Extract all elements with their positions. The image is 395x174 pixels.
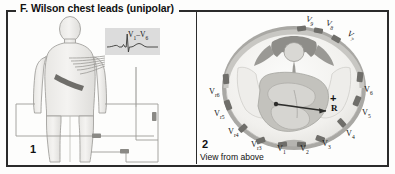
limb-electrode-markers <box>92 112 157 154</box>
lead-label-vr3: Vr3 <box>251 140 262 149</box>
lead-label-vr4: Vr4 <box>228 127 239 136</box>
figure-head <box>60 17 81 42</box>
section-letter: F. <box>20 2 28 14</box>
lead-label-v4: V4 <box>346 129 355 138</box>
figure-page: F.Wilson chest leads (unipolar) <box>0 0 395 174</box>
figure-leg-right <box>79 116 94 162</box>
ecg-lead-range-label: V1–V6 <box>128 30 148 41</box>
figure-torso <box>45 43 95 116</box>
figure-leg-left <box>47 116 62 162</box>
lead-label-v3: V3 <box>322 139 331 148</box>
lead-label-v1: V1 <box>277 144 286 153</box>
lead-label-vr5: Vr5 <box>214 109 225 118</box>
electrode-tab-vr6 <box>223 74 230 84</box>
panel-2-caption: View from above <box>200 152 264 162</box>
figure-title: F.Wilson chest leads (unipolar) <box>16 2 179 14</box>
panel-1-number: 1 <box>30 143 36 155</box>
right-side-marker: R <box>331 104 338 113</box>
lead-label-v6: V6 <box>364 85 373 94</box>
lead-label-v5: V5 <box>362 108 371 117</box>
panel-divider <box>196 12 197 164</box>
panel-1-body-illustration <box>8 12 196 164</box>
panel-2-number: 2 <box>202 138 208 150</box>
spinal-canal <box>284 43 304 62</box>
frame-bottom-rule <box>6 165 389 167</box>
lead-label-vr6: Vr6 <box>209 87 220 96</box>
panel-2-thorax-illustration <box>198 12 388 164</box>
figure-arm-left <box>34 57 47 113</box>
title-text: Wilson chest leads (unipolar) <box>31 2 174 14</box>
ecg-label-sub-6: 6 <box>145 35 148 41</box>
lead-label-v2: V2 <box>300 144 309 153</box>
electrode-tab-v6 <box>356 72 363 83</box>
